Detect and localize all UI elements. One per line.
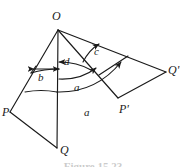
ray-O-to-P <box>10 30 58 112</box>
edge-P-to-Q <box>10 112 57 148</box>
vertex-label-P: P <box>2 106 9 118</box>
vertex-label-P-prime: P' <box>119 103 129 115</box>
arc-a-left-outer <box>25 91 57 93</box>
ray-O-to-Q <box>57 30 58 148</box>
segment-label-d: d <box>64 56 70 67</box>
segment-label-a-inner: a <box>74 82 80 93</box>
segment-label-b: b <box>38 72 44 83</box>
vertex-label-Q: Q <box>60 144 69 156</box>
vertex-label-O: O <box>52 10 61 22</box>
edge-Pprime-to-Qprime <box>118 72 166 98</box>
ray-O-to-Qprime <box>58 30 166 72</box>
figure-caption: Figure 15.23 <box>0 160 186 167</box>
figure-container: O P Q P' Q' b d c a a Figure 15.23 <box>0 0 186 167</box>
geometry-diagram <box>0 0 186 167</box>
vertex-label-Q-prime: Q' <box>168 64 179 76</box>
segment-label-a-outer: a <box>84 107 90 118</box>
segment-label-c: c <box>94 46 99 57</box>
edge-inner-connector <box>99 56 128 75</box>
